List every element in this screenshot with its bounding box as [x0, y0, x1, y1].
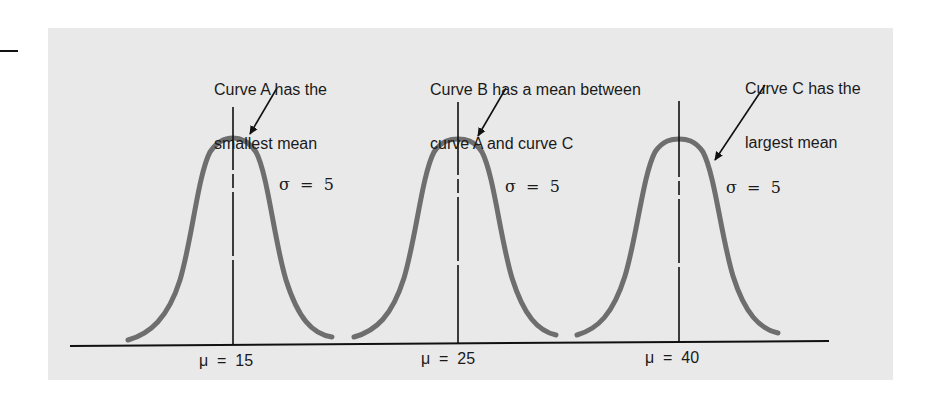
mean-label-c: μ = 40 [645, 349, 699, 367]
sigma-label-a: σ = 5 [279, 175, 334, 194]
annotation-a-line1: Curve A has the [214, 81, 327, 99]
annotation-curve-c: Curve C has the largest mean [745, 44, 861, 170]
annotation-c-line1: Curve C has the [745, 80, 861, 98]
mean-label-a: μ = 15 [199, 352, 253, 370]
annotation-c-line2: largest mean [745, 134, 861, 152]
annotation-a-line2: smallest mean [214, 135, 327, 153]
sigma-label-c: σ = 5 [726, 178, 781, 197]
annotation-curve-b: Curve B has a mean between curve A and c… [430, 45, 641, 171]
annotation-b-line2: curve A and curve C [430, 135, 641, 153]
annotation-curve-a: Curve A has the smallest mean [214, 45, 327, 171]
sigma-label-b: σ = 5 [505, 177, 560, 196]
annotation-b-line1: Curve B has a mean between [430, 81, 641, 99]
x-axis [70, 341, 829, 346]
mean-label-b: μ = 25 [421, 350, 475, 368]
